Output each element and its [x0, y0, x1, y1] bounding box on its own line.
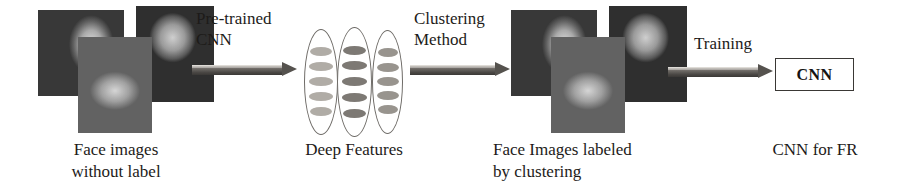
labeled-images-caption: Face Images labeled by clustering — [493, 139, 693, 183]
arrow-clustering-method — [410, 62, 510, 77]
cnn-output-box: CNN — [775, 58, 854, 91]
input-images-caption: Face images without label — [41, 139, 191, 183]
arrow-clustering-method-label: Clustering Method — [414, 8, 485, 50]
arrow-training-label: Training — [694, 33, 752, 54]
face-photo-person-with-cap — [551, 37, 625, 133]
face-photo-person-with-cap — [78, 37, 152, 133]
output-model-caption: CNN for FR — [745, 139, 885, 161]
feature-layer-1 — [304, 29, 338, 135]
input-face-image-stack — [32, 4, 202, 139]
cnn-box-label: CNN — [796, 66, 832, 84]
feature-layer-2 — [337, 27, 372, 137]
arrow-pre-trained-cnn-label: Pre-trained CNN — [196, 8, 272, 50]
deep-features-caption: Deep Features — [279, 139, 429, 161]
labeled-face-image-stack — [505, 4, 675, 139]
deep-features-layers — [304, 27, 404, 135]
arrow-pre-trained-cnn — [192, 62, 297, 77]
arrow-training — [668, 64, 773, 79]
pipeline-figure: Face images without label Pre-trained CN… — [0, 0, 899, 194]
feature-layer-3 — [372, 30, 403, 134]
